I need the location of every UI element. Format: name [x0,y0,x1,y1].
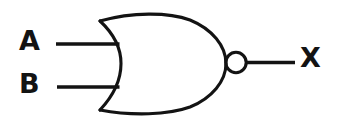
gate-schematic-canvas [0,0,339,127]
inversion-bubble-icon [226,52,246,72]
input-label-a: A [19,27,40,54]
or-gate-concave-left-edge [100,21,121,110]
or-gate-body-outline [100,14,226,114]
logic-gate-diagram: A B X [0,0,339,127]
input-label-b: B [19,70,40,97]
output-label-x: X [300,44,321,71]
